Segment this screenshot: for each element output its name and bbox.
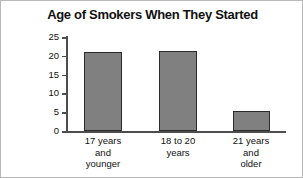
y-tick-mark-25: [62, 37, 68, 39]
x-category-label-0-line-2: and: [73, 147, 133, 159]
x-category-label-1: 18 to 20 years: [148, 135, 208, 158]
bar-chart-figure: Age of Smokers When They Started Number …: [0, 0, 303, 178]
x-category-label-2-line-3: older: [221, 158, 281, 170]
bar-21-years-and-older: [233, 111, 270, 131]
y-tick-label-0: 0: [43, 126, 59, 136]
x-category-label-2: 21 years and older: [221, 135, 281, 170]
x-category-label-1-line-2: years: [148, 147, 208, 159]
bar-18-to-20-years: [159, 51, 197, 131]
chart-title: Age of Smokers When They Started: [1, 7, 303, 22]
y-tick-label-25: 25: [43, 32, 59, 42]
bar-17-years-and-younger: [84, 52, 122, 131]
x-category-label-0-line-1: 17 years: [73, 135, 133, 147]
y-tick-label-10: 10: [43, 88, 59, 98]
y-tick-mark-5: [62, 112, 68, 114]
x-category-label-2-line-2: and: [221, 147, 281, 159]
y-tick-label-5: 5: [43, 107, 59, 117]
y-tick-mark-0: [62, 131, 68, 133]
x-axis-line: [66, 131, 286, 133]
y-tick-label-20: 20: [43, 51, 59, 61]
x-category-label-0-line-3: younger: [73, 158, 133, 170]
y-axis-line: [66, 36, 68, 132]
y-tick-mark-15: [62, 75, 68, 77]
y-tick-mark-20: [62, 56, 68, 58]
y-tick-mark-10: [62, 93, 68, 95]
y-tick-label-15: 15: [43, 70, 59, 80]
y-axis-title: Number of Smokers (millions): [0, 31, 3, 135]
x-category-label-0: 17 years and younger: [73, 135, 133, 170]
x-category-label-2-line-1: 21 years: [221, 135, 281, 147]
x-category-label-1-line-1: 18 to 20: [148, 135, 208, 147]
